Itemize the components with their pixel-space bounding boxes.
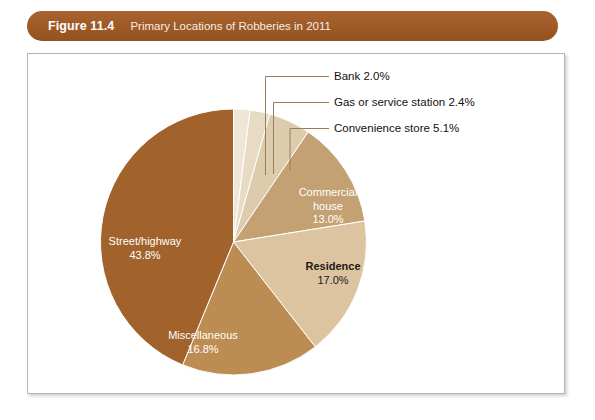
figure-number: Figure 11.4 xyxy=(48,19,114,33)
chart-card: Street/highway 43.8% Miscellaneous 16.8%… xyxy=(27,53,565,394)
figure-header-bar: Figure 11.4 Primary Locations of Robberi… xyxy=(27,11,558,41)
pie-chart-svg xyxy=(28,54,566,395)
pie-chart: Street/highway 43.8% Miscellaneous 16.8%… xyxy=(28,54,566,395)
callout-label-gas-station: Gas or service station 2.4% xyxy=(334,96,475,109)
callout-label-bank: Bank 2.0% xyxy=(334,70,390,83)
pie-slice-group xyxy=(100,109,366,375)
callout-label-convenience-store: Convenience store 5.1% xyxy=(334,122,459,135)
figure-title: Primary Locations of Robberies in 2011 xyxy=(130,20,331,32)
